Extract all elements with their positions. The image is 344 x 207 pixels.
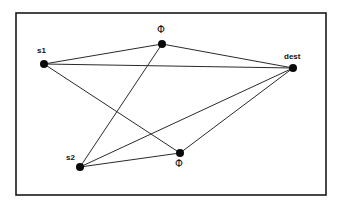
edge-s1-phi_top: [44, 44, 162, 64]
edge-s2-dest: [80, 68, 293, 167]
edge-phi_top-dest: [162, 44, 293, 68]
node-label-dest: dest: [284, 52, 301, 61]
node-s2: [76, 163, 84, 171]
edge-s1-phi_bottom: [44, 64, 180, 153]
node-phi_bottom: [176, 149, 184, 157]
edge-phi_top-s2: [80, 44, 162, 167]
edge-phi_bottom-dest: [180, 68, 293, 153]
node-label-phi_top: Φ: [157, 24, 165, 35]
node-dest: [289, 64, 297, 72]
node-label-s2: s2: [66, 153, 75, 162]
diagram-frame: [16, 13, 326, 195]
node-phi_top: [158, 40, 166, 48]
nodes-group: [40, 40, 297, 171]
node-label-phi_bottom: Φ: [175, 158, 183, 169]
node-s1: [40, 60, 48, 68]
node-label-s1: s1: [37, 46, 46, 55]
edges-group: [44, 44, 293, 167]
edge-s1-dest: [44, 64, 293, 68]
network-diagram: s1Φdests2Φ: [0, 0, 344, 207]
